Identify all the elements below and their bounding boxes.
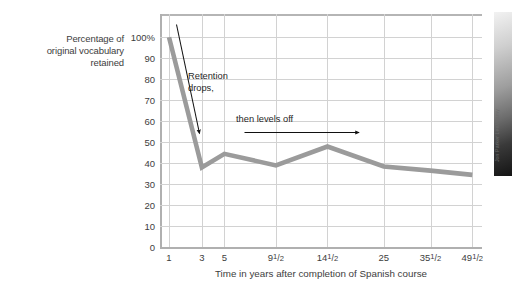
x-tick-whole: 3 [199, 252, 204, 263]
y-tick-label: 30 [144, 179, 155, 190]
y-tick-label: 70 [144, 95, 155, 106]
annotation-retention-drops-line-1: Retention [188, 71, 228, 83]
y-axis-title-line-1: Percentage of [6, 33, 124, 45]
plot-area: 100% 90 80 70 60 50 40 30 20 10 0 1 3 5 … [160, 14, 482, 249]
annotation-then-levels-off: then levels off [236, 114, 293, 126]
photo-credit-strip: Jon Parker Lee/Alamy [482, 12, 512, 176]
y-axis-title-line-3: retained [6, 57, 124, 69]
annotation-retention-drops-line-2: drops, [188, 83, 228, 95]
x-tick-denominator: 2 [437, 254, 441, 263]
x-tick-label: 1 [166, 252, 171, 263]
x-tick-whole: 1 [166, 252, 171, 263]
y-tick-label: 10 [144, 221, 155, 232]
x-tick-denominator: 2 [479, 254, 483, 263]
x-tick-denominator: 2 [334, 254, 338, 263]
x-tick-whole: 35 [420, 252, 431, 263]
x-tick-label: 91/2 [268, 252, 284, 263]
y-tick-label: 100% [131, 32, 155, 43]
x-tick-denominator: 2 [280, 254, 284, 263]
y-tick-label: 60 [144, 116, 155, 127]
y-tick-label: 80 [144, 74, 155, 85]
x-tick-label: 3 [199, 252, 204, 263]
x-tick-label: 351/2 [420, 252, 441, 263]
x-tick-whole: 5 [222, 252, 227, 263]
data-overlay [160, 14, 482, 249]
x-tick-label: 141/2 [317, 252, 338, 263]
y-axis-title-line-2: original vocabulary [6, 45, 124, 57]
x-axis-title: Time in years after completion of Spanis… [160, 268, 482, 279]
y-tick-label: 50 [144, 137, 155, 148]
data-series-line [169, 37, 472, 175]
x-tick-whole: 49 [462, 252, 473, 263]
y-axis-title: Percentage of original vocabulary retain… [6, 33, 124, 70]
x-tick-label: 491/2 [462, 252, 483, 263]
y-tick-label: 20 [144, 200, 155, 211]
y-tick-label: 0 [150, 242, 155, 253]
annotation-retention-drops: Retention drops, [188, 71, 228, 94]
x-tick-whole: 25 [379, 252, 390, 263]
x-tick-label: 25 [379, 252, 390, 263]
x-tick-whole: 14 [317, 252, 328, 263]
photo-credit-text: Jon Parker Lee/Alamy [494, 109, 500, 162]
retention-chart-figure: Percentage of original vocabulary retain… [0, 0, 512, 296]
y-tick-label: 40 [144, 158, 155, 169]
x-tick-label: 5 [222, 252, 227, 263]
y-tick-label: 90 [144, 53, 155, 64]
